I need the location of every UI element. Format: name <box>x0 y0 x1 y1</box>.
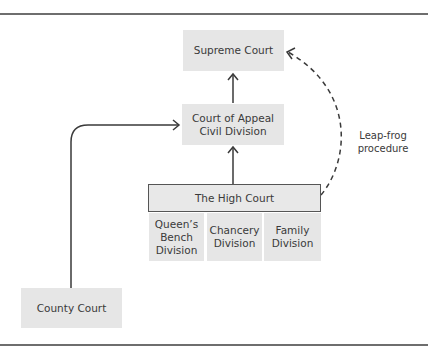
chancery-label-2: Division <box>214 237 256 250</box>
county-court-label: County Court <box>37 302 107 315</box>
supreme-court-node: Supreme Court <box>183 30 284 71</box>
family-label-1: Family <box>276 224 310 237</box>
chancery-division-node: Chancery Division <box>207 213 262 261</box>
court-of-appeal-label-2: Civil Division <box>199 125 266 138</box>
family-division-node: Family Division <box>264 213 321 261</box>
queens-bench-label-2: Bench <box>160 231 193 244</box>
arrow-appeal-to-supreme <box>228 74 238 103</box>
high-court-label: The High Court <box>195 192 274 205</box>
queens-bench-label-1: Queen’s <box>155 218 198 231</box>
supreme-court-label: Supreme Court <box>194 44 273 57</box>
high-court-node: The High Court <box>148 184 321 212</box>
leapfrog-annotation: Leap-frog procedure <box>350 129 416 155</box>
county-court-node: County Court <box>21 288 122 328</box>
queens-bench-label-3: Division <box>156 244 198 257</box>
leapfrog-label-2: procedure <box>350 142 416 155</box>
arrow-leapfrog <box>287 48 341 195</box>
family-label-2: Division <box>272 237 314 250</box>
queens-bench-division-node: Queen’s Bench Division <box>149 213 204 261</box>
leapfrog-label-1: Leap-frog <box>350 129 416 142</box>
court-of-appeal-node: Court of Appeal Civil Division <box>182 104 284 145</box>
court-of-appeal-label-1: Court of Appeal <box>192 112 274 125</box>
chancery-label-1: Chancery <box>210 224 260 237</box>
arrow-high-to-appeal <box>228 147 238 184</box>
